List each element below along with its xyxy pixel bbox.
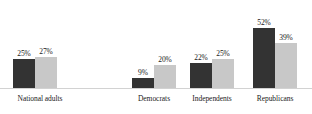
bar-column: 52% <box>253 0 275 88</box>
bar <box>253 28 275 88</box>
bar-value-label: 52% <box>257 19 270 27</box>
bar-column: 39% <box>275 0 297 88</box>
bar-value-label: 25% <box>17 50 30 58</box>
bar-chart: 25%27%9%20%22%25%52%39% National adultsD… <box>0 0 312 114</box>
bar <box>275 43 297 88</box>
category-label: Independents <box>177 94 247 103</box>
bar <box>212 59 234 88</box>
bar-pair: 52%39% <box>253 0 297 88</box>
bar-value-label: 20% <box>158 56 171 64</box>
plot-area: 25%27%9%20%22%25%52%39% <box>0 0 312 88</box>
bar-value-label: 25% <box>216 50 229 58</box>
bar <box>35 57 57 88</box>
bar-value-label: 22% <box>194 54 207 62</box>
bar-pair: 9%20% <box>132 0 176 88</box>
bar-column: 25% <box>13 0 35 88</box>
bar <box>13 59 35 88</box>
bar <box>154 65 176 88</box>
category-label: National adults <box>0 94 80 103</box>
bar <box>132 78 154 88</box>
category-label: Republicans <box>240 94 310 103</box>
bar-pair: 22%25% <box>190 0 234 88</box>
bar-column: 9% <box>132 0 154 88</box>
bar-column: 27% <box>35 0 57 88</box>
bar <box>190 63 212 88</box>
bar-value-label: 9% <box>138 69 148 77</box>
bar-column: 25% <box>212 0 234 88</box>
x-axis-line <box>0 88 312 89</box>
bar-value-label: 39% <box>279 34 292 42</box>
bar-column: 20% <box>154 0 176 88</box>
bar-value-label: 27% <box>39 48 52 56</box>
bar-column: 22% <box>190 0 212 88</box>
bar-pair: 25%27% <box>13 0 57 88</box>
